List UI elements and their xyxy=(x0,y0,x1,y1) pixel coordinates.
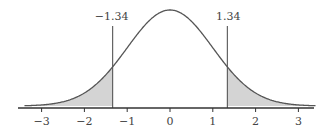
critical-value-label: −1.34 xyxy=(95,10,129,23)
x-tick-label: 0 xyxy=(167,115,174,128)
normal-density-curve xyxy=(24,10,315,106)
x-tick-label: −3 xyxy=(33,115,49,128)
critical-value-lines: −1.341.34 xyxy=(95,10,241,108)
normal-curve-chart: −1.341.34 −3−2−10123 xyxy=(0,0,324,134)
x-tick-label: 2 xyxy=(252,115,259,128)
x-tick-label: 3 xyxy=(295,115,302,128)
x-tick-label: 1 xyxy=(209,115,216,128)
critical-value-label: 1.34 xyxy=(216,10,241,23)
x-tick-label: −1 xyxy=(119,115,135,128)
x-axis-ticks: −3−2−10123 xyxy=(33,108,301,128)
x-tick-label: −2 xyxy=(76,115,92,128)
